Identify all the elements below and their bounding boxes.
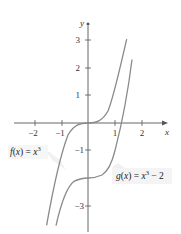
y-tick-label: 2 xyxy=(76,63,81,73)
g-curve xyxy=(56,60,132,226)
x-axis-arrow-icon xyxy=(162,121,168,126)
y-tick-label: 1 xyxy=(76,90,81,100)
x-tick-label: −1 xyxy=(55,128,65,138)
y-axis-name: y xyxy=(79,18,84,28)
y-axis-arrow-icon xyxy=(87,23,90,26)
x-axis-name: x xyxy=(164,127,169,137)
f-function-label: f(x) = x3 xyxy=(10,145,41,158)
x-tick-label: −2 xyxy=(28,128,38,138)
cubic-functions-chart: −2 −1 1 2 x 3 2 1 −1 −3 y f(x) = x3 g(x)… xyxy=(0,0,181,234)
x-tick-label: 1 xyxy=(113,128,118,138)
x-tick-label: 2 xyxy=(140,128,145,138)
y-tick-label: −3 xyxy=(74,201,84,211)
y-tick-label: 3 xyxy=(76,35,81,45)
g-function-label: g(x) = x3 − 2 xyxy=(116,169,164,182)
y-tick-label: −1 xyxy=(74,145,84,155)
